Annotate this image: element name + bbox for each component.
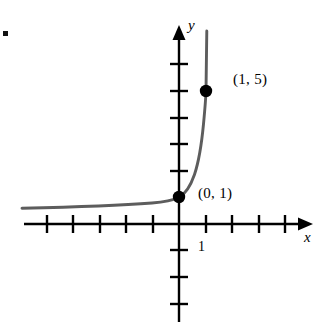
- x-tick-label-1: 1: [198, 240, 205, 254]
- exponential-graph-figure: y x (1, 5) (0, 1) 1: [0, 0, 326, 332]
- point-0-1: [173, 191, 185, 203]
- y-axis-arrowhead: [173, 25, 186, 40]
- graph-canvas: [0, 0, 326, 332]
- point-1-5: [200, 85, 212, 97]
- x-axis-label: x: [304, 230, 311, 245]
- point-label-0-1: (0, 1): [198, 186, 232, 201]
- y-axis-label: y: [188, 18, 195, 33]
- point-label-1-5: (1, 5): [233, 72, 267, 87]
